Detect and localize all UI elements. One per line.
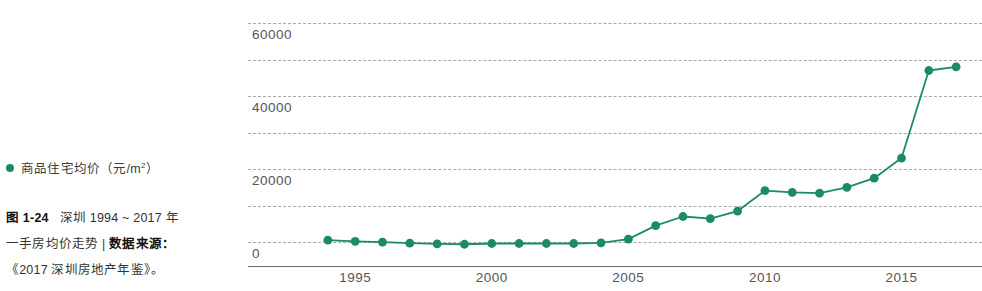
legend-label: 商品住宅均价（元/m2） bbox=[21, 158, 159, 177]
data-point-marker[interactable] bbox=[597, 238, 606, 247]
data-point-marker[interactable] bbox=[460, 240, 469, 249]
legend-dot-icon bbox=[6, 164, 14, 172]
x-axis-tick-label: 2000 bbox=[476, 270, 508, 285]
data-point-marker[interactable] bbox=[842, 183, 851, 192]
data-point-marker[interactable] bbox=[897, 154, 906, 163]
data-point-marker[interactable] bbox=[870, 174, 879, 183]
data-point-marker[interactable] bbox=[569, 239, 578, 248]
data-point-marker[interactable] bbox=[405, 239, 414, 248]
caption-line-3: 《2017 深圳房地产年鉴》。 bbox=[6, 257, 236, 283]
price-trend-chart: 0200004000060000 19952000200520102015 bbox=[248, 0, 982, 291]
caption-line-2: 一手房均价走势 | 数据来源： bbox=[6, 231, 236, 257]
data-point-marker[interactable] bbox=[433, 239, 442, 248]
caption-line-1: 图 1-24 深圳 1994 ~ 2017 年 bbox=[6, 205, 236, 231]
legend-label-tail: ） bbox=[146, 162, 159, 176]
legend-label-main: 商品住宅均价（元 bbox=[21, 162, 127, 176]
data-point-marker[interactable] bbox=[624, 235, 633, 244]
data-point-marker[interactable] bbox=[761, 186, 770, 195]
data-point-marker[interactable] bbox=[487, 239, 496, 248]
figure-number: 图 1-24 bbox=[6, 211, 49, 225]
data-point-marker[interactable] bbox=[515, 239, 524, 248]
caption-column: 商品住宅均价（元/m2） 图 1-24 深圳 1994 ~ 2017 年 一手房… bbox=[0, 0, 240, 291]
figure-caption: 图 1-24 深圳 1994 ~ 2017 年 一手房均价走势 | 数据来源： … bbox=[6, 205, 236, 283]
caption-source-label: 数据来源： bbox=[109, 237, 175, 251]
legend-label-unit: /m bbox=[127, 162, 141, 176]
data-point-marker[interactable] bbox=[351, 237, 360, 246]
data-point-marker[interactable] bbox=[952, 62, 961, 71]
data-line bbox=[328, 67, 956, 244]
data-point-marker[interactable] bbox=[323, 236, 332, 245]
x-axis-tick-label: 2015 bbox=[885, 270, 917, 285]
caption-separator: | bbox=[102, 237, 105, 251]
x-axis-tick-label: 2010 bbox=[749, 270, 781, 285]
data-point-marker[interactable] bbox=[815, 189, 824, 198]
data-point-marker[interactable] bbox=[706, 214, 715, 223]
caption-title: 深圳 1994 ~ 2017 年 bbox=[60, 211, 179, 225]
data-point-marker[interactable] bbox=[651, 221, 660, 230]
data-point-marker[interactable] bbox=[542, 239, 551, 248]
x-axis-tick-label: 2005 bbox=[612, 270, 644, 285]
x-axis-tick-label: 1995 bbox=[339, 270, 371, 285]
caption-subtitle: 一手房均价走势 bbox=[6, 237, 98, 251]
plot-area: 0200004000060000 bbox=[248, 0, 982, 268]
data-point-marker[interactable] bbox=[378, 238, 387, 247]
data-point-marker[interactable] bbox=[679, 212, 688, 221]
x-axis-line bbox=[248, 266, 982, 267]
data-point-marker[interactable] bbox=[924, 66, 933, 75]
chart-legend: 商品住宅均价（元/m2） bbox=[6, 158, 159, 177]
series-line bbox=[248, 0, 982, 268]
data-point-marker[interactable] bbox=[788, 188, 797, 197]
data-point-marker[interactable] bbox=[733, 207, 742, 216]
